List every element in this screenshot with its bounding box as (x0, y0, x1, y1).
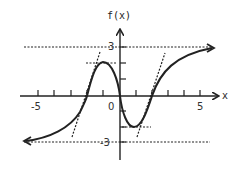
y-axis-label: f(x) (107, 10, 131, 21)
x-axis-label: x (222, 90, 228, 101)
tangent-at-2 (137, 53, 165, 137)
y-tick-label-3: 3 (108, 41, 114, 52)
y-tick-label-neg3: -3 (100, 137, 110, 148)
tangent-at-neg2 (72, 52, 100, 137)
x-tick-label-neg5: -5 (31, 101, 41, 112)
x-tick-label-0: 0 (108, 101, 114, 112)
x-tick-label-5: 5 (197, 101, 203, 112)
y-ticks (120, 47, 126, 142)
function-graph: f(x) x -5 0 5 3 -3 (0, 0, 238, 172)
